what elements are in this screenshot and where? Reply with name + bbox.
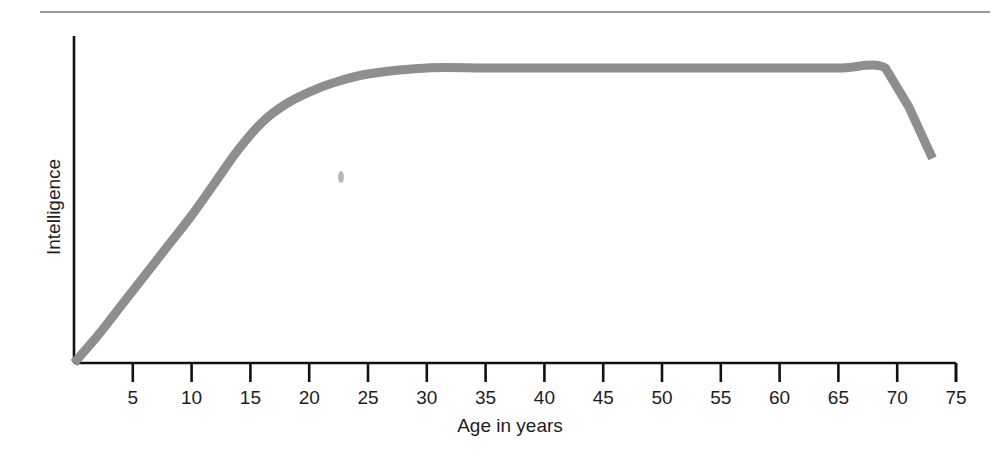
x-axis-tick-marks [133,363,956,382]
x-tick-label-15: 15 [240,387,261,408]
x-tick-label-10: 10 [181,387,202,408]
x-tick-label-25: 25 [357,387,378,408]
intelligence-age-chart: 51015202530354045505560657075 Intelligen… [0,0,1007,466]
x-tick-label-5: 5 [128,387,139,408]
x-tick-label-75: 75 [945,387,966,408]
x-tick-label-55: 55 [710,387,731,408]
figure-page: 51015202530354045505560657075 Intelligen… [0,0,1007,466]
y-axis-title: Intelligence [43,159,64,255]
x-axis-title: Age in years [457,415,563,436]
x-tick-label-70: 70 [887,387,908,408]
x-tick-label-40: 40 [534,387,555,408]
x-tick-label-30: 30 [416,387,437,408]
x-tick-label-35: 35 [475,387,496,408]
x-axis-tick-labels: 51015202530354045505560657075 [128,387,967,408]
x-tick-label-45: 45 [593,387,614,408]
scan-speck-artifact [338,171,344,183]
x-tick-label-65: 65 [828,387,849,408]
intelligence-curve [74,65,932,363]
x-tick-label-20: 20 [299,387,320,408]
x-tick-label-60: 60 [769,387,790,408]
x-tick-label-50: 50 [651,387,672,408]
